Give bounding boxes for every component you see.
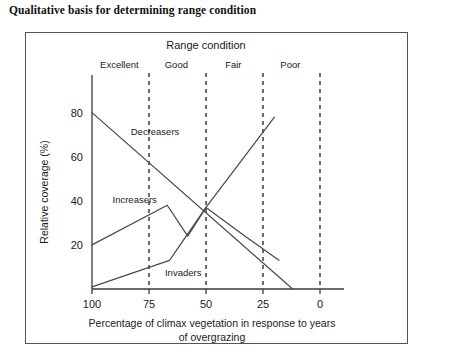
x-tick-label-25: 25: [257, 298, 269, 310]
series-label-invaders: Invaders: [165, 267, 202, 278]
condition-class-label-fair: Fair: [225, 59, 241, 70]
y-tick-label-20: 20: [71, 239, 83, 251]
range-condition-chart: Range conditionExcellentGoodFairPoor2040…: [26, 33, 407, 343]
y-tick-label-40: 40: [71, 195, 83, 207]
x-axis-title-line1: Percentage of climax vegetation in respo…: [89, 317, 336, 329]
x-axis-title-line2: of overgrazing: [179, 331, 246, 343]
chart-frame: Range conditionExcellentGoodFairPoor2040…: [25, 32, 408, 344]
series-label-increasers: Increasers: [113, 194, 158, 205]
condition-class-label-excellent: Excellent: [100, 59, 139, 70]
x-tick-label-0: 0: [317, 298, 323, 310]
y-tick-label-80: 80: [71, 107, 83, 119]
range-condition-heading: Range condition: [166, 39, 246, 51]
series-label-decreasers: Decreasers: [131, 126, 180, 137]
x-tick-label-100: 100: [83, 298, 101, 310]
x-tick-label-50: 50: [200, 298, 212, 310]
page-title: Qualitative basis for determining range …: [9, 4, 256, 16]
x-tick-label-75: 75: [143, 298, 155, 310]
y-axis-title: Relative coverage (%): [38, 140, 50, 243]
condition-class-label-good: Good: [165, 59, 188, 70]
y-tick-label-60: 60: [71, 151, 83, 163]
condition-class-label-poor: Poor: [280, 59, 300, 70]
